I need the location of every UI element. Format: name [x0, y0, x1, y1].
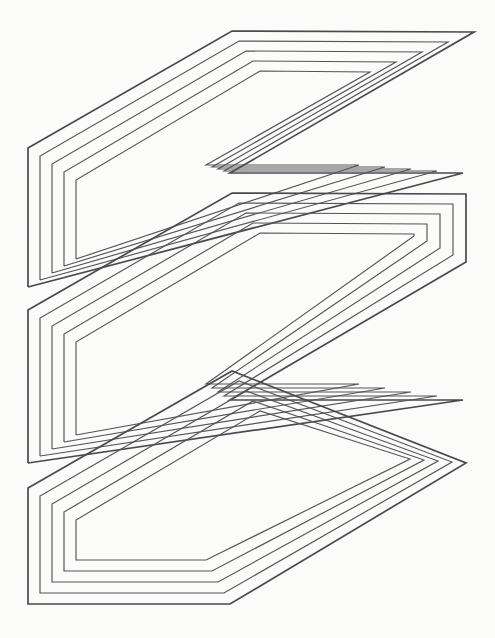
- artboard: [0, 0, 495, 638]
- line-art-canvas: [0, 0, 495, 638]
- canvas-background: [0, 0, 495, 638]
